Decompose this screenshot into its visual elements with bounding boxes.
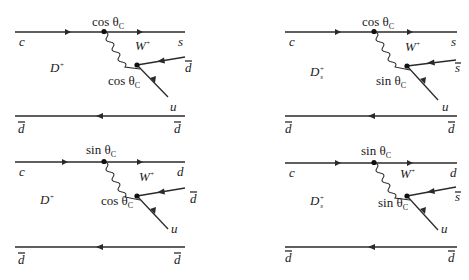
label-boson: W+ [135, 38, 151, 53]
diagram-bottom-right: c d sin θC W+ s D+s sin θC u d d [285, 143, 461, 265]
arrow-right-icon [137, 29, 143, 35]
arrow-left-icon [96, 244, 103, 250]
label-upper-in: c [19, 34, 25, 49]
label-meson: D+s [309, 64, 324, 81]
outgoing-quark-line [407, 66, 438, 100]
diagram-top-right: c s cos θC W+ s D+s sin θC u d d [285, 14, 461, 136]
arrow-left-icon [427, 60, 435, 66]
diagram-top-left: c s cos θC W+ d D+ cos θC u d d [15, 14, 192, 136]
label-meson: D+ [39, 192, 54, 207]
label-spectator-right: d [174, 252, 181, 267]
label-spectator-right: d [174, 121, 181, 136]
label-vertex2-factor: sin θC [376, 73, 406, 90]
arrow-left-icon [368, 113, 375, 119]
label-vertex1-factor: cos θC [92, 14, 124, 31]
label-spectator-right: d [448, 250, 455, 265]
arrow-right-icon [137, 159, 143, 165]
arrow-left-icon [96, 113, 103, 119]
arrow-left-icon [157, 189, 165, 195]
label-meson: D+s [309, 193, 324, 210]
arrow-right-icon [62, 159, 68, 165]
outgoing-quark-line [137, 196, 168, 229]
label-upper-in: c [289, 165, 295, 180]
arrow-right-icon [335, 160, 341, 166]
label-upper-out: d [450, 165, 457, 180]
label-antiquark-in: d [185, 60, 192, 75]
label-upper-out: s [451, 34, 456, 49]
label-vertex1-factor: sin θC [86, 142, 116, 159]
label-antiquark-in: d [190, 191, 197, 206]
label-boson: W+ [405, 39, 421, 54]
vertex-dot [371, 29, 376, 34]
arrow-left-icon [427, 188, 435, 194]
label-spectator-left: d [18, 121, 25, 136]
label-vertex1-factor: cos θC [362, 14, 394, 31]
label-upper-in: c [19, 164, 25, 179]
diagram-bottom-left: c d sin θC W+ d D+ cos θC u d d [15, 142, 197, 267]
label-spectator-right: d [448, 121, 455, 136]
label-antiquark-in: s [455, 189, 460, 204]
arrow-left-icon [157, 58, 165, 64]
label-boson: W+ [139, 169, 155, 184]
vertex-dot [371, 160, 376, 165]
label-vertex1-factor: sin θC [361, 143, 391, 160]
label-boson: W+ [400, 166, 416, 181]
label-spectator-left: d [285, 121, 292, 136]
vertex-dot [404, 193, 409, 198]
vertex-dot [101, 159, 106, 164]
arrow-right-icon [335, 29, 341, 35]
vertex-dot [134, 193, 139, 198]
vertex-dot [404, 63, 409, 68]
label-spectator-left: d [285, 250, 292, 265]
label-vertex2-factor: cos θC [101, 193, 133, 210]
label-quark-out: u [442, 99, 449, 114]
label-quark-out: u [441, 221, 448, 236]
feynman-diagram-figure: c s cos θC W+ d D+ cos θC u d d c s cos … [0, 0, 469, 280]
label-quark-out: u [171, 221, 178, 236]
label-upper-out: d [177, 164, 184, 179]
outgoing-quark-line [137, 65, 168, 97]
label-vertex2-factor: cos θC [108, 73, 140, 90]
arrow-right-icon [65, 29, 71, 35]
label-upper-out: s [178, 34, 183, 49]
arrow-right-icon [407, 29, 413, 35]
label-meson: D+ [49, 60, 64, 75]
label-quark-out: u [170, 99, 177, 114]
outgoing-quark-line [407, 196, 438, 230]
label-antiquark-in: s [455, 60, 460, 75]
label-upper-in: c [289, 34, 295, 49]
label-vertex2-factor: sin θC [378, 195, 408, 212]
arrow-left-icon [368, 244, 375, 250]
vertex-dot [134, 62, 139, 67]
label-spectator-left: d [18, 252, 25, 267]
vertex-dot [101, 29, 106, 34]
